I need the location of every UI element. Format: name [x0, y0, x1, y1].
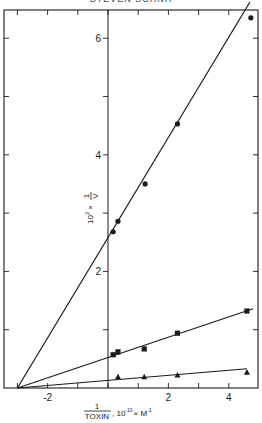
x-tick-label: -2 [43, 392, 52, 403]
x-label-denominator: TOXIN [85, 412, 110, 421]
y-label-exp: 2 [84, 211, 90, 215]
y-tick-label: 4 [95, 150, 101, 161]
square-marker [142, 346, 147, 351]
circle-marker [111, 229, 116, 234]
y-label-denominator: V [91, 193, 100, 199]
y-tick-label: 6 [95, 33, 101, 44]
x-label-units: , 10-10× M-1 [112, 407, 152, 418]
triangles-fit-line [17, 369, 247, 388]
square-marker [244, 308, 249, 313]
triangle-marker [244, 369, 250, 375]
x-axis-label: 1 TOXIN , 10-10× M-1 [84, 402, 152, 421]
squares-fit-line [17, 309, 253, 388]
circle-marker [143, 181, 148, 186]
square-marker [115, 349, 120, 354]
circle-marker [175, 121, 180, 126]
lineweaver-burk-chart: -224246 102× 1 V 1 TOXIN , 10-10× M-1 [0, 0, 262, 423]
circle-marker [115, 219, 120, 224]
triangle-marker [115, 374, 121, 380]
x-label-numerator: 1 [95, 402, 100, 411]
svg-text:102×: 102× [84, 205, 95, 224]
y-axis-label: 102× 1 V [82, 192, 100, 224]
y-tick-label: 2 [95, 266, 101, 277]
square-marker [111, 352, 116, 357]
circles-fit-line [17, 2, 250, 388]
square-marker [175, 331, 180, 336]
triangle-marker [141, 374, 147, 380]
y-label-numerator: 1 [82, 193, 91, 198]
y-label-times: × [86, 205, 95, 210]
fit-lines [17, 2, 253, 388]
circle-marker [248, 15, 253, 20]
x-tick-label: 2 [166, 392, 172, 403]
x-tick-label: 4 [226, 392, 232, 403]
